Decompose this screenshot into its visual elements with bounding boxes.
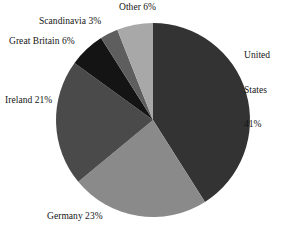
slice-label-united-states-line3: 41%	[244, 119, 270, 131]
slice-label-united-states-line1: United	[244, 50, 270, 62]
pie-chart: United States 41% Germany 23% Ireland 21…	[0, 0, 283, 235]
slice-label-germany: Germany 23%	[47, 211, 103, 223]
slice-label-scandinavia: Scandinavia 3%	[39, 16, 101, 28]
slice-label-united-states-line2: States	[244, 85, 270, 97]
slice-label-united-states: United States 41%	[244, 27, 270, 154]
slice-label-other: Other 6%	[119, 2, 156, 14]
slice-label-great-britain: Great Britain 6%	[9, 36, 75, 48]
slice-label-ireland: Ireland 21%	[5, 95, 52, 107]
pie-slices-group	[56, 23, 250, 217]
